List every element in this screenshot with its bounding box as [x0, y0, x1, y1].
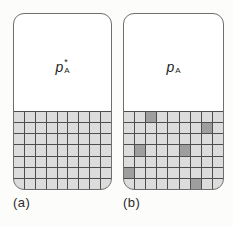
solvent-cell: [79, 123, 89, 133]
solvent-cell: [47, 112, 57, 122]
solvent-cell: [58, 134, 68, 144]
solute-cell: [180, 145, 190, 155]
solvent-cell: [36, 134, 46, 144]
solvent-cell: [213, 179, 223, 189]
solvent-cell: [180, 157, 190, 167]
solvent-cell: [14, 145, 24, 155]
solvent-cell: [101, 179, 111, 189]
pressure-symbol-scripts: A: [175, 58, 180, 75]
solvent-cell: [47, 157, 57, 167]
solvent-cell: [191, 157, 201, 167]
solvent-cell: [146, 145, 156, 155]
solvent-cell: [90, 134, 100, 144]
solvent-cell: [135, 157, 145, 167]
solvent-cell: [146, 157, 156, 167]
solvent-cell: [168, 168, 178, 178]
solvent-cell: [58, 145, 68, 155]
solvent-cell: [191, 145, 201, 155]
solvent-cell: [146, 168, 156, 178]
solute-cell: [191, 179, 201, 189]
solvent-cell: [25, 134, 35, 144]
solvent-cell: [213, 145, 223, 155]
solvent-cell: [124, 145, 134, 155]
solvent-cell: [168, 123, 178, 133]
vapor-region-solution: p A: [124, 14, 223, 111]
solvent-cell: [36, 145, 46, 155]
solvent-cell: [25, 112, 35, 122]
solvent-cell: [36, 123, 46, 133]
vapor-region-pure: p * A: [14, 14, 111, 111]
solvent-cell: [36, 157, 46, 167]
solvent-cell: [191, 112, 201, 122]
solvent-cell: [68, 123, 78, 133]
solvent-cell: [101, 112, 111, 122]
solvent-cell: [101, 123, 111, 133]
solvent-cell: [36, 179, 46, 189]
solvent-cell: [124, 179, 134, 189]
solvent-cell: [101, 145, 111, 155]
solvent-cell: [180, 179, 190, 189]
solvent-cell: [135, 134, 145, 144]
solvent-cell: [14, 179, 24, 189]
solvent-cell: [90, 145, 100, 155]
solvent-cell: [58, 179, 68, 189]
solvent-cell: [47, 123, 57, 133]
solvent-cell: [58, 168, 68, 178]
solute-cell: [124, 168, 134, 178]
solvent-cell: [14, 123, 24, 133]
solvent-cell: [14, 134, 24, 144]
solvent-cell: [191, 134, 201, 144]
solvent-cell: [180, 112, 190, 122]
solvent-cell: [124, 112, 134, 122]
solvent-cell: [146, 134, 156, 144]
solvent-cell: [124, 123, 134, 133]
solvent-cell: [157, 168, 167, 178]
solvent-cell: [14, 157, 24, 167]
solvent-cell: [68, 157, 78, 167]
pressure-symbol: p: [55, 59, 63, 75]
solvent-cell: [168, 112, 178, 122]
solvent-cell: [202, 179, 212, 189]
solvent-cell: [25, 145, 35, 155]
panel-solution: p A (b): [123, 13, 224, 210]
subscript-a: A: [64, 66, 69, 75]
solvent-cell: [146, 123, 156, 133]
superscript-star: *: [64, 58, 68, 66]
solvent-cell: [90, 179, 100, 189]
solvent-cell: [157, 112, 167, 122]
solvent-cell: [180, 123, 190, 133]
solvent-cell: [79, 179, 89, 189]
vapor-pressure-label-pure: p * A: [55, 58, 69, 75]
solvent-cell: [79, 157, 89, 167]
solvent-cell: [191, 123, 201, 133]
solvent-cell: [157, 134, 167, 144]
solvent-cell: [202, 168, 212, 178]
solvent-cell: [79, 112, 89, 122]
solvent-cell: [90, 112, 100, 122]
solvent-cell: [124, 134, 134, 144]
solvent-cell: [68, 134, 78, 144]
solute-cell: [146, 112, 156, 122]
pressure-symbol-scripts: * A: [64, 58, 69, 75]
solvent-cell: [168, 179, 178, 189]
solvent-cell: [202, 145, 212, 155]
solvent-cell: [90, 157, 100, 167]
solvent-cell: [47, 179, 57, 189]
solvent-cell: [202, 134, 212, 144]
solvent-cell: [168, 145, 178, 155]
solvent-cell: [79, 168, 89, 178]
solvent-cell: [79, 134, 89, 144]
solvent-cell: [58, 157, 68, 167]
solvent-cell: [68, 168, 78, 178]
solvent-cell: [14, 168, 24, 178]
solvent-cell: [47, 145, 57, 155]
solvent-cell: [168, 134, 178, 144]
solvent-grid-pure: [14, 111, 111, 189]
solvent-cell: [202, 112, 212, 122]
solvent-cell: [157, 157, 167, 167]
solvent-cell: [191, 168, 201, 178]
solvent-cell: [58, 123, 68, 133]
solvent-cell: [101, 168, 111, 178]
solvent-cell: [36, 168, 46, 178]
solvent-cell: [168, 157, 178, 167]
